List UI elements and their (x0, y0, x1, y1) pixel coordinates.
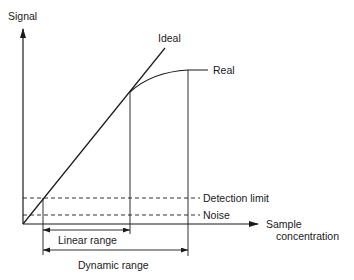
x-axis-label-line2: concentration (276, 230, 339, 242)
linear-range-label: Linear range (58, 234, 117, 246)
detection-limit-line: Detection limit (23, 192, 269, 204)
linear-range-indicator: Linear range (43, 228, 130, 247)
x-axis-label-line1: Sample (266, 218, 302, 230)
y-axis: Signal (8, 10, 37, 224)
dynamic-range-indicator: Dynamic range (43, 248, 188, 272)
dynamic-range-label: Dynamic range (78, 259, 149, 271)
detection-limit-label: Detection limit (203, 192, 269, 204)
real-label: Real (213, 64, 235, 76)
signal-concentration-diagram: Signal Sample concentration Detection li… (0, 0, 354, 280)
real-curve: Real (130, 64, 235, 92)
noise-label: Noise (203, 209, 230, 221)
noise-line: Noise (23, 209, 230, 221)
ideal-label: Ideal (158, 32, 181, 44)
y-axis-label: Signal (8, 10, 37, 22)
ideal-curve: Ideal (23, 32, 181, 224)
